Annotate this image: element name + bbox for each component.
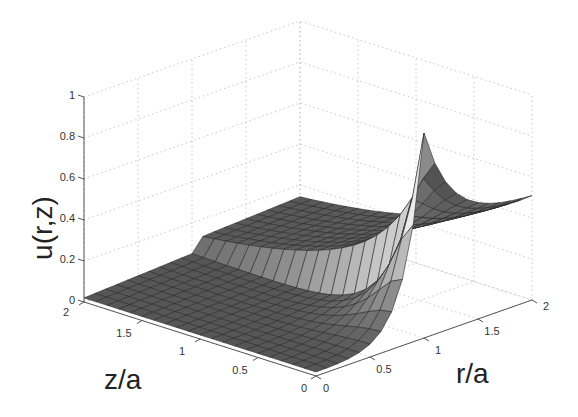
z-tick-label: 2 — [63, 306, 69, 318]
x-axis-label: r/a — [456, 358, 489, 389]
u-tick-label: 1 — [69, 89, 75, 101]
surface-plot: 00.20.40.60.8100.511.5200.511.52 u(r,z) … — [0, 0, 578, 417]
r-tick-label: 2 — [543, 300, 549, 312]
u-tick-label: 0.2 — [60, 253, 75, 265]
y-axis-label: z/a — [104, 364, 142, 395]
z-tick-label: 1.5 — [116, 327, 131, 339]
u-tick-label: 0.4 — [60, 212, 75, 224]
u-tick-label: 0 — [69, 294, 75, 306]
r-tick-label: 0.5 — [376, 363, 391, 375]
z-axis-label: u(r,z) — [27, 196, 58, 260]
surface-mesh — [84, 133, 532, 372]
r-tick-label: 1 — [435, 344, 441, 356]
z-tick-label: 0.5 — [232, 364, 247, 376]
z-tick-label: 1 — [179, 345, 185, 357]
r-tick-label: 0 — [323, 382, 329, 394]
u-tick-label: 0.6 — [60, 171, 75, 183]
z-tick-label: 0 — [301, 382, 307, 394]
r-tick-label: 1.5 — [484, 325, 499, 337]
u-tick-label: 0.8 — [60, 130, 75, 142]
